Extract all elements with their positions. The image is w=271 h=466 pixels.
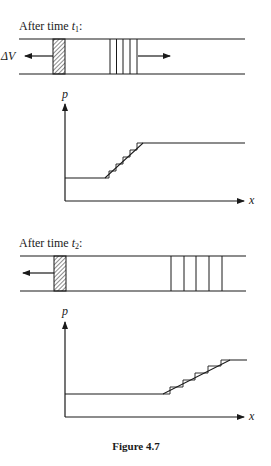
- panel-2: After time t2: p x: [19, 236, 255, 423]
- piston: [54, 256, 66, 291]
- panel-2-label: After time t2:: [19, 236, 82, 251]
- panel-1: After time t1: ΔV p x: [0, 19, 255, 207]
- y-axis-label: p: [61, 304, 68, 318]
- delta-v-label: ΔV: [0, 49, 17, 63]
- x-axis-label: x: [248, 193, 255, 207]
- figure-canvas: After time t1: ΔV p x: [0, 0, 271, 466]
- figure-caption: Figure 4.7: [112, 440, 160, 452]
- graph-1: p x: [61, 87, 255, 207]
- panel-1-label: After time t1:: [19, 19, 82, 34]
- pressure-profile: [65, 143, 245, 178]
- tube-1: ΔV: [0, 39, 245, 74]
- wave-lines: [171, 256, 222, 291]
- x-axis-label: x: [248, 409, 255, 423]
- pressure-profile: [65, 360, 247, 394]
- piston: [53, 39, 65, 74]
- tube-2: [20, 256, 246, 291]
- graph-2: p x: [61, 304, 255, 423]
- y-axis-label: p: [61, 87, 68, 101]
- wave-lines: [110, 39, 137, 74]
